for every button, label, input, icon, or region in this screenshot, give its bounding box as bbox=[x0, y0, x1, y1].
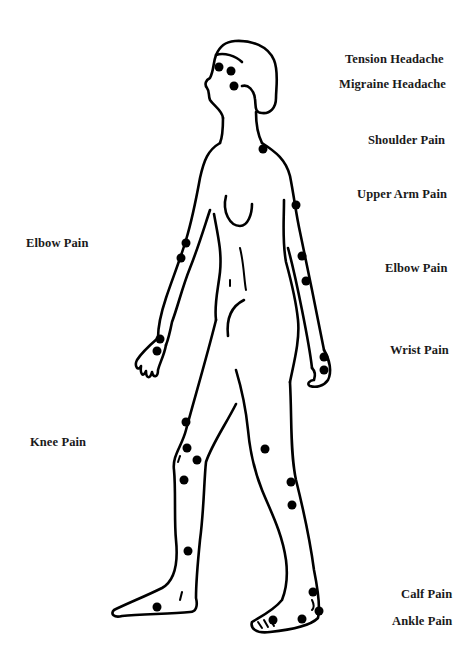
label-wrist-pain: Wrist Pain bbox=[390, 343, 449, 358]
front-torso bbox=[214, 214, 221, 320]
knee-line bbox=[178, 456, 180, 462]
pain-dot-elbow-right-2 bbox=[302, 277, 311, 286]
pain-dot-ankle-left bbox=[153, 603, 162, 612]
pain-dot-head-3 bbox=[230, 82, 239, 91]
pain-dot-wrist-right-2 bbox=[320, 366, 329, 375]
label-calf-pain: Calf Pain bbox=[401, 587, 452, 602]
right-arm-inner bbox=[288, 248, 312, 368]
pain-dot-elbow-left-2 bbox=[177, 254, 186, 263]
pain-dot-wrist-left-2 bbox=[153, 347, 162, 356]
label-upper-arm-pain: Upper Arm Pain bbox=[357, 187, 447, 202]
head-outline bbox=[206, 41, 277, 118]
back-torso bbox=[284, 200, 299, 382]
pain-dot-elbow-right-1 bbox=[298, 252, 307, 261]
pain-dot-shoulder bbox=[259, 145, 268, 154]
label-ankle-pain: Ankle Pain bbox=[392, 614, 452, 629]
neck-front bbox=[220, 118, 223, 143]
ankle-line-left bbox=[180, 592, 182, 600]
groin-line bbox=[228, 300, 244, 336]
label-elbow-pain-right: Elbow Pain bbox=[385, 261, 447, 276]
label-shoulder-pain: Shoulder Pain bbox=[368, 133, 445, 148]
pain-dot-ankle-right-1 bbox=[315, 607, 324, 616]
pain-dot-knee-1 bbox=[182, 418, 191, 427]
label-elbow-pain-left: Elbow Pain bbox=[26, 236, 88, 251]
pain-dot-calf-ankle bbox=[309, 588, 318, 597]
torso-line bbox=[240, 248, 246, 290]
back-leg-outer bbox=[236, 370, 319, 632]
ankle-line-right bbox=[312, 600, 314, 610]
pain-dot-calf-1 bbox=[287, 478, 296, 487]
label-migraine-headache: Migraine Headache bbox=[339, 77, 446, 92]
hair-line bbox=[216, 54, 242, 62]
pain-points bbox=[153, 63, 329, 625]
back-line bbox=[262, 143, 324, 350]
front-leg-outer bbox=[112, 320, 236, 617]
pain-dot-head-2 bbox=[227, 67, 236, 76]
pain-dot-elbow-left-1 bbox=[182, 239, 191, 248]
pain-dot-wrist-left-1 bbox=[156, 335, 165, 344]
body-outline-figure bbox=[0, 0, 474, 667]
chest-curve bbox=[225, 196, 252, 226]
pain-dot-knee-back bbox=[261, 445, 270, 454]
pain-dot-ankle-right-2 bbox=[298, 615, 307, 624]
pain-dot-wrist-right-1 bbox=[320, 353, 329, 362]
label-knee-pain: Knee Pain bbox=[30, 435, 86, 450]
pain-dot-upper-arm bbox=[292, 201, 301, 210]
pain-dot-calf-2 bbox=[288, 501, 297, 510]
pain-dot-knee-3 bbox=[193, 456, 202, 465]
pain-dot-shin bbox=[184, 547, 193, 556]
pain-dot-knee-4 bbox=[180, 476, 189, 485]
label-tension-headache: Tension Headache bbox=[345, 52, 444, 67]
neck-back bbox=[256, 112, 262, 143]
pain-dot-ankle-right-3 bbox=[269, 616, 278, 625]
pain-dot-knee-2 bbox=[183, 444, 192, 453]
pain-dot-head-1 bbox=[215, 63, 224, 72]
left-hand bbox=[136, 338, 166, 377]
